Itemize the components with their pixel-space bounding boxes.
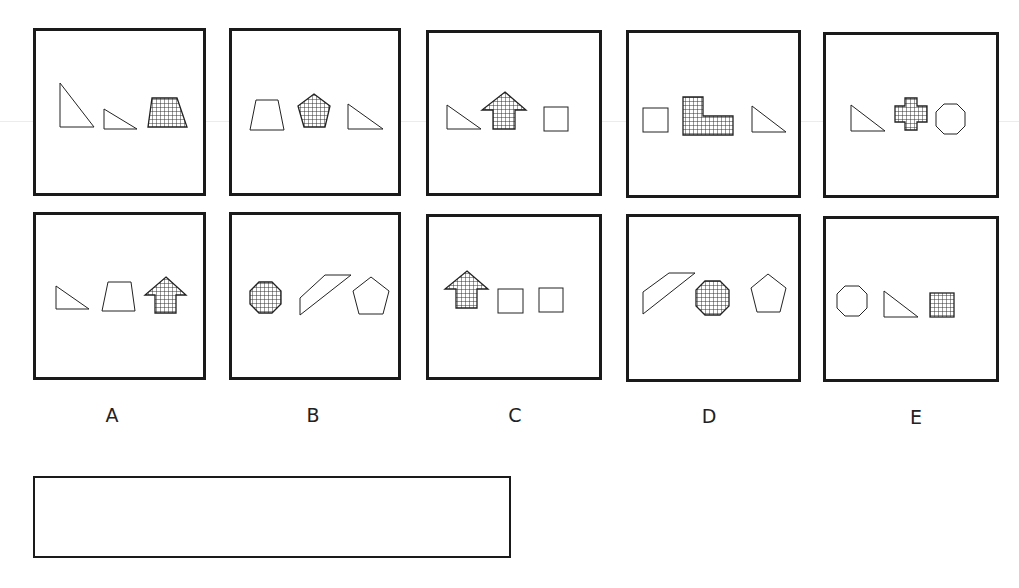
pentagon-shape bbox=[751, 274, 786, 312]
octagon-shape bbox=[936, 104, 965, 134]
square-grid-shape bbox=[930, 293, 954, 317]
panel-d-bottom bbox=[626, 214, 801, 382]
l-shape-grid-shape bbox=[683, 97, 733, 135]
panel-e-top bbox=[823, 32, 999, 198]
panel-a-top bbox=[33, 28, 206, 196]
arrow-up-grid-shape bbox=[145, 277, 186, 313]
panel-c-bottom bbox=[426, 214, 602, 380]
panel-c-top bbox=[426, 30, 602, 196]
trapezoid-shape bbox=[102, 282, 135, 311]
option-label-e[interactable]: E bbox=[896, 406, 936, 428]
option-label-a[interactable]: A bbox=[92, 404, 132, 426]
panel-a-bottom bbox=[33, 212, 206, 380]
right-triangle-shape bbox=[348, 104, 383, 129]
pentagon-shape bbox=[353, 277, 389, 314]
right-triangle-tall-shape bbox=[60, 83, 94, 127]
right-triangle-shape bbox=[752, 106, 786, 132]
answer-input-box[interactable] bbox=[33, 476, 511, 558]
right-triangle-shape bbox=[884, 291, 918, 317]
trapezoid-grid-shape bbox=[148, 98, 187, 127]
panel-b-top bbox=[229, 28, 401, 196]
parallelogram-shape bbox=[300, 275, 351, 315]
trapezoid-shape bbox=[250, 100, 284, 130]
right-triangle-shape bbox=[447, 105, 481, 129]
panel-d-top bbox=[626, 30, 801, 198]
square-shape bbox=[544, 107, 568, 131]
arrow-up-grid-shape bbox=[445, 271, 488, 308]
right-triangle-shape bbox=[851, 105, 885, 131]
panel-e-bottom bbox=[823, 216, 999, 382]
square-shape bbox=[643, 108, 668, 132]
cross-grid-shape bbox=[895, 98, 927, 130]
right-triangle-shape bbox=[104, 109, 137, 129]
right-triangle-shape bbox=[56, 286, 89, 309]
octagon-grid-shape bbox=[696, 281, 729, 315]
square-shape bbox=[539, 288, 563, 312]
square-shape bbox=[498, 289, 523, 313]
option-label-d[interactable]: D bbox=[689, 405, 729, 427]
octagon-shape bbox=[837, 286, 867, 316]
arrow-up-grid-shape bbox=[482, 92, 526, 129]
parallelogram-shape bbox=[643, 273, 695, 314]
panel-b-bottom bbox=[229, 212, 401, 380]
option-label-b[interactable]: B bbox=[293, 404, 333, 426]
option-label-c[interactable]: C bbox=[495, 404, 535, 426]
pentagon-grid-shape bbox=[298, 94, 330, 127]
octagon-grid-shape bbox=[250, 282, 281, 313]
